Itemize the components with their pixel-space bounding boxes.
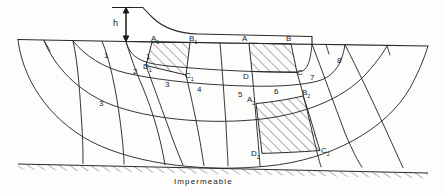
- point-C-base: C: [297, 68, 303, 77]
- hatched-element-A1B1C1D1: [146, 42, 190, 75]
- point-label-A2: A2: [247, 96, 255, 106]
- point-C2-sub: 2: [327, 151, 330, 157]
- equipotential-lines: [73, 41, 403, 168]
- point-A2-sub: 2: [252, 100, 255, 106]
- point-label-B1: B1: [189, 35, 197, 45]
- flow-line-1: [73, 41, 345, 86]
- point-B1-sub: 1: [194, 39, 197, 45]
- zone-label-6: 6: [274, 88, 278, 96]
- flow-net-figure: 1 1 2 3 3 4 5 6 7 8 A1 B1 A B D1 C1 D C …: [0, 0, 443, 195]
- head-label-h: h: [113, 19, 118, 28]
- zone-label-1-right: 1: [146, 53, 150, 61]
- zone-label-7: 7: [310, 74, 314, 82]
- zone-label-3-mid: 3: [165, 81, 169, 89]
- zone-label-4: 4: [197, 86, 201, 94]
- flow-net-drawing: [0, 0, 443, 195]
- equipotential-1: [73, 41, 83, 164]
- flow-line-2: [44, 41, 387, 122]
- zone-label-3-left: 3: [99, 100, 103, 108]
- point-label-A: A: [242, 35, 247, 45]
- downstream-ground-line: [312, 44, 428, 46]
- zone-label-5: 5: [238, 91, 242, 99]
- impermeable-label: Impermeable: [174, 178, 233, 186]
- equipotential-10: [345, 45, 403, 168]
- point-label-D: D: [243, 73, 249, 83]
- point-label-D1: D1: [143, 63, 152, 73]
- point-label-D2: D2: [251, 150, 260, 160]
- flow-line-3: [18, 40, 428, 169]
- point-C1-sub: 1: [191, 76, 194, 82]
- point-D2-sub: 2: [257, 154, 260, 160]
- zone-label-8: 8: [337, 57, 341, 65]
- upstream-ground-line: [18, 40, 126, 42]
- point-label-C: C: [297, 69, 303, 79]
- point-A1-sub: 1: [156, 39, 159, 45]
- point-D-base: D: [243, 72, 249, 81]
- zone-label-1-left: 1: [104, 52, 108, 60]
- hatched-element-ABCD: [249, 43, 297, 72]
- point-label-C1: C1: [185, 72, 194, 82]
- point-D1-sub: 1: [149, 67, 152, 73]
- point-B2-sub: 2: [307, 93, 310, 99]
- point-B-base: B: [286, 34, 291, 43]
- zone-label-2: 2: [133, 68, 137, 76]
- point-label-B2: B2: [302, 89, 310, 99]
- flow-lines: [18, 40, 428, 169]
- point-label-C2: C2: [321, 147, 330, 157]
- equipotential-6: [220, 43, 228, 166]
- point-A-base: A: [242, 34, 247, 43]
- point-label-B: B: [286, 35, 291, 45]
- point-label-A1: A1: [151, 35, 159, 45]
